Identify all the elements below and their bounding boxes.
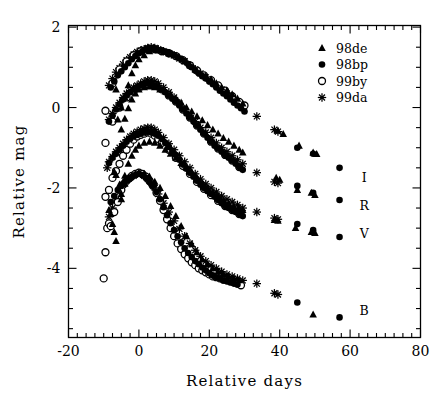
data-point-filled-triangle (125, 160, 133, 167)
data-point-filled-circle (107, 199, 114, 206)
series-99da-band-B (105, 170, 282, 299)
data-point-filled-circle (107, 84, 114, 91)
data-point-asterisk (274, 290, 282, 298)
legend-item-99da: 99da (318, 90, 368, 105)
legend-label-98de: 98de (336, 41, 367, 56)
data-point-filled-triangle (125, 104, 133, 111)
data-point-filled-triangle (309, 310, 317, 317)
data-point-filled-triangle (225, 138, 233, 145)
data-point-filled-triangle (128, 69, 136, 76)
light-curve-plot: -2002040608020-2-4Relative daysRelative … (0, 0, 448, 397)
x-axis-title: Relative days (186, 372, 303, 390)
data-point-filled-triangle (162, 192, 170, 199)
data-point-asterisk (253, 168, 261, 176)
data-point-filled-circle (336, 314, 343, 321)
data-point-filled-circle (294, 299, 301, 306)
legend-item-99by: 99by (319, 74, 368, 89)
data-point-open-circle (105, 186, 112, 193)
data-point-filled-circle (241, 108, 248, 115)
data-point-asterisk (253, 279, 261, 287)
y-axis-title: Relative mag (10, 124, 28, 238)
data-point-filled-triangle (118, 126, 126, 133)
data-point-open-circle (102, 193, 109, 200)
series-98bp-band-B (107, 171, 342, 321)
data-point-filled-triangle (140, 139, 148, 146)
x-tick-label: 60 (341, 343, 359, 359)
figure-container: -2002040608020-2-4Relative daysRelative … (0, 0, 448, 397)
data-point-filled-circle (111, 193, 118, 200)
legend-label-99da: 99da (336, 90, 368, 105)
band-label-R: R (359, 198, 369, 213)
y-tick-label: -4 (47, 260, 61, 276)
data-point-filled-circle (164, 212, 171, 219)
x-tick-label: 40 (271, 343, 289, 359)
data-point-asterisk (253, 112, 261, 120)
y-tick-label: -2 (47, 180, 61, 196)
data-point-filled-circle (319, 61, 326, 68)
data-point-open-circle (102, 139, 109, 146)
data-point-filled-circle (167, 220, 174, 227)
data-point-filled-circle (178, 239, 185, 246)
data-point-filled-circle (336, 197, 343, 204)
data-points-layer (100, 43, 343, 321)
data-point-asterisk (253, 208, 261, 216)
data-point-filled-triangle (112, 237, 120, 244)
x-tick-label: 20 (200, 343, 218, 359)
x-tick-label: -20 (57, 343, 80, 359)
band-label-V: V (359, 226, 370, 241)
data-point-filled-circle (336, 165, 343, 172)
data-point-filled-circle (239, 167, 246, 174)
data-point-filled-circle (160, 204, 167, 211)
data-point-open-circle (116, 160, 123, 167)
data-point-filled-circle (171, 227, 178, 234)
legend-label-99by: 99by (336, 74, 368, 89)
data-point-filled-circle (111, 78, 118, 85)
series-98bp-band-R (106, 80, 343, 203)
band-labels: IRVB (359, 170, 370, 318)
y-tick-label: 0 (52, 100, 61, 116)
data-point-filled-circle (239, 213, 246, 220)
legend-item-98de: 98de (318, 41, 367, 56)
series-98de-band-V (110, 138, 318, 236)
x-tick-label: 0 (134, 343, 143, 359)
legend: 98de98bp99by99da (318, 41, 368, 106)
data-point-filled-circle (109, 112, 116, 119)
data-point-filled-triangle (167, 202, 175, 209)
legend-label-98bp: 98bp (336, 57, 368, 72)
data-point-filled-triangle (318, 44, 326, 51)
band-label-B: B (360, 303, 369, 318)
y-tick-label: 2 (52, 19, 61, 35)
data-point-filled-circle (106, 118, 113, 125)
data-point-filled-triangle (172, 212, 180, 219)
data-point-filled-triangle (121, 115, 129, 122)
data-point-filled-triangle (177, 222, 185, 229)
data-point-asterisk (318, 93, 326, 101)
series-98bp (106, 45, 343, 321)
legend-item-98bp: 98bp (319, 57, 368, 72)
x-tick-label: 80 (412, 343, 430, 359)
band-label-I: I (362, 170, 367, 185)
data-point-open-circle (100, 275, 107, 282)
data-point-filled-circle (157, 196, 164, 203)
data-point-filled-circle (336, 234, 343, 241)
data-point-open-circle (102, 107, 109, 114)
data-point-open-circle (102, 249, 109, 256)
data-point-open-circle (319, 78, 326, 85)
series-99by (100, 46, 248, 289)
data-point-filled-circle (174, 233, 181, 240)
